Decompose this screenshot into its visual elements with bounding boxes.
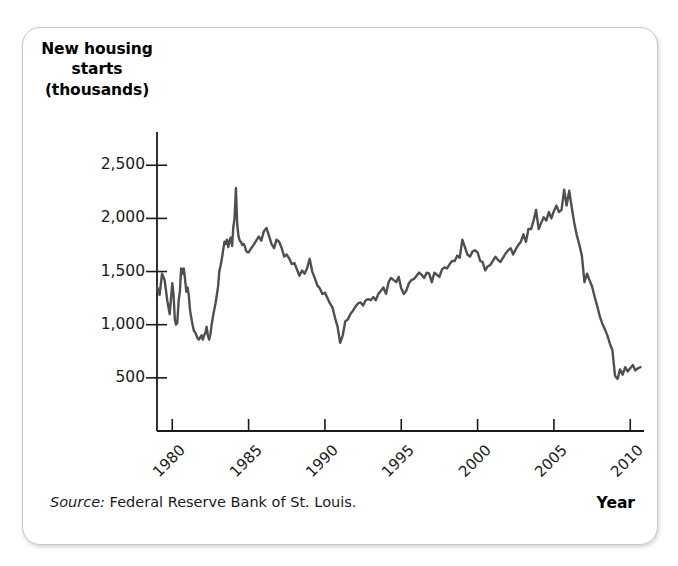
x-axis-title: Year — [597, 494, 635, 512]
data-series-line — [157, 188, 640, 379]
y-tick-label: 2,500 — [49, 155, 145, 173]
line-chart-svg — [23, 28, 659, 546]
y-tick-label: 1,000 — [49, 315, 145, 333]
source-note: Source: Federal Reserve Bank of St. Loui… — [50, 494, 356, 510]
axis-ticks — [146, 165, 630, 431]
source-text: Federal Reserve Bank of St. Louis. — [105, 494, 356, 510]
plot-area — [23, 28, 659, 546]
y-tick-label: 1,500 — [49, 262, 145, 280]
figure-frame: New housing starts (thousands) 5001,0001… — [22, 27, 658, 545]
source-label: Source: — [50, 494, 105, 510]
y-tick-label: 2,000 — [49, 208, 145, 226]
y-tick-label: 500 — [49, 368, 145, 386]
